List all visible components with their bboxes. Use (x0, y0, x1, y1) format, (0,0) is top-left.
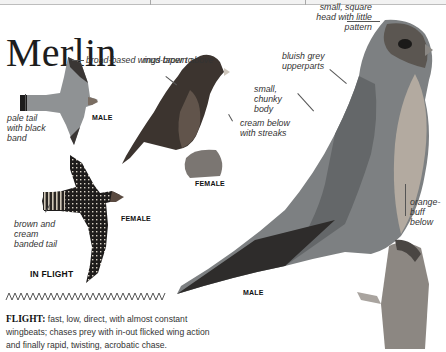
leader-line (72, 60, 84, 61)
label-banded-tail: brown and cream banded tail (14, 219, 66, 249)
label-chunky-body: small, chunky body (254, 84, 300, 114)
caption-perched-male: MALE (243, 289, 264, 296)
label-orange-buff: orange-buff below (410, 197, 446, 227)
label-bluish-grey: bluish grey upperparts (282, 51, 332, 71)
header-divider (150, 0, 151, 5)
leader-line (405, 184, 406, 216)
caption-flight-female: FEMALE (121, 215, 151, 222)
page-header-rule (0, 0, 446, 5)
leader-line (25, 94, 26, 111)
flight-description: FLIGHT: fast, low, direct, with almost c… (6, 313, 226, 352)
caption-in-flight: IN FLIGHT (30, 269, 73, 279)
zigzag-flight-path-icon (6, 292, 166, 302)
caption-flight-male: MALE (92, 114, 113, 121)
label-pale-tail: pale tail with black band (7, 113, 49, 143)
label-square-head: small, square head with little pattern (306, 2, 372, 32)
flight-heading: FLIGHT: (6, 314, 45, 324)
